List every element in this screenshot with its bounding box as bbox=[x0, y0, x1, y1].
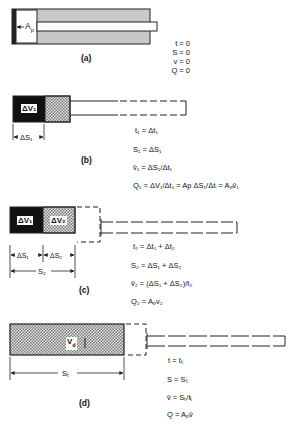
cylinder-diagram bbox=[0, 0, 293, 423]
eq-b-2: S₁ = ΔS₁ bbox=[133, 145, 162, 154]
eq-d-2: S = Sₜ bbox=[167, 375, 188, 384]
dim-label-ds1: ΔS₁ bbox=[20, 133, 33, 142]
eq-d-1: t = tₜ bbox=[168, 356, 183, 365]
eq-c-2: S₂ = ΔS₁ + ΔS₂ bbox=[131, 261, 181, 270]
caption-a: (a) bbox=[81, 53, 91, 63]
eq-b-4: Q₁ = ΔV₁/Δt₁ = Ap ΔS₁/Δtᵢ = Aₚv̄₁ bbox=[133, 181, 239, 190]
caption-d: (d) bbox=[79, 398, 90, 408]
eq-b-1: t₁ = Δt₁ bbox=[135, 126, 158, 135]
dim-label-ds1-c: ΔS₁ bbox=[17, 251, 29, 260]
caption-c: (c) bbox=[79, 285, 89, 295]
dim-label-st: Sₜ bbox=[62, 369, 69, 378]
eq-c-1: t₂ = Δt₁ + Δt₂ bbox=[133, 242, 175, 251]
eq-a-1: t = 0 bbox=[170, 39, 190, 48]
dim-label-ds2: ΔS₂ bbox=[50, 251, 62, 260]
volume-label-dv1-c: ΔV₁ bbox=[17, 216, 33, 225]
eq-a-4: Q = 0 bbox=[163, 66, 190, 75]
volume-label-vd: Vd bbox=[66, 337, 77, 350]
eq-a-2: S = 0 bbox=[165, 48, 190, 57]
eq-d-3: v̄ = Sₜ/tₜ bbox=[167, 393, 192, 402]
eq-a-3: v = 0 bbox=[165, 57, 190, 66]
eq-d-4: Q = Aₚv̄ bbox=[167, 410, 193, 419]
panel-a-cylinder bbox=[12, 9, 157, 44]
dim-label-s2: S₂ bbox=[38, 267, 46, 276]
eq-c-4: Q₂ = Aₚv₂ bbox=[131, 297, 163, 306]
eq-c-3: v̄₂ = (ΔS₁ + ΔS₂)/t₂ bbox=[131, 279, 192, 288]
panel-d-cylinder bbox=[10, 324, 285, 380]
volume-label-dv1: ΔV₁ bbox=[21, 104, 37, 113]
caption-b: (b) bbox=[81, 155, 92, 165]
piston-area-label: Ap bbox=[25, 22, 34, 35]
panel-b-cylinder bbox=[13, 96, 186, 140]
volume-label-dv2: ΔV₂ bbox=[50, 216, 67, 225]
eq-b-3: v̄₁ = ΔS₁/Δt₁ bbox=[133, 163, 172, 172]
